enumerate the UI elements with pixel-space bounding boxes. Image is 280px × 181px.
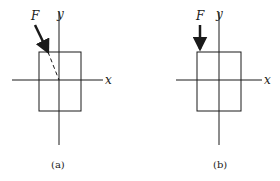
x-axis-label: x <box>105 73 112 87</box>
line-of-action-dashed <box>48 52 59 80</box>
x-axis-label: x <box>264 73 271 87</box>
figure: F y x (a) F y x (b) <box>0 0 280 181</box>
rectangle-body <box>39 52 81 111</box>
panel-caption: (b) <box>213 159 227 170</box>
panel-b: F y x (b) <box>176 7 271 170</box>
y-axis-label: y <box>56 7 64 21</box>
force-arrow <box>35 25 48 52</box>
panel-caption: (a) <box>51 159 65 170</box>
force-label: F <box>30 9 40 23</box>
y-axis-label: y <box>215 7 223 21</box>
force-label: F <box>195 9 205 23</box>
panel-a: F y x (a) <box>12 7 112 170</box>
